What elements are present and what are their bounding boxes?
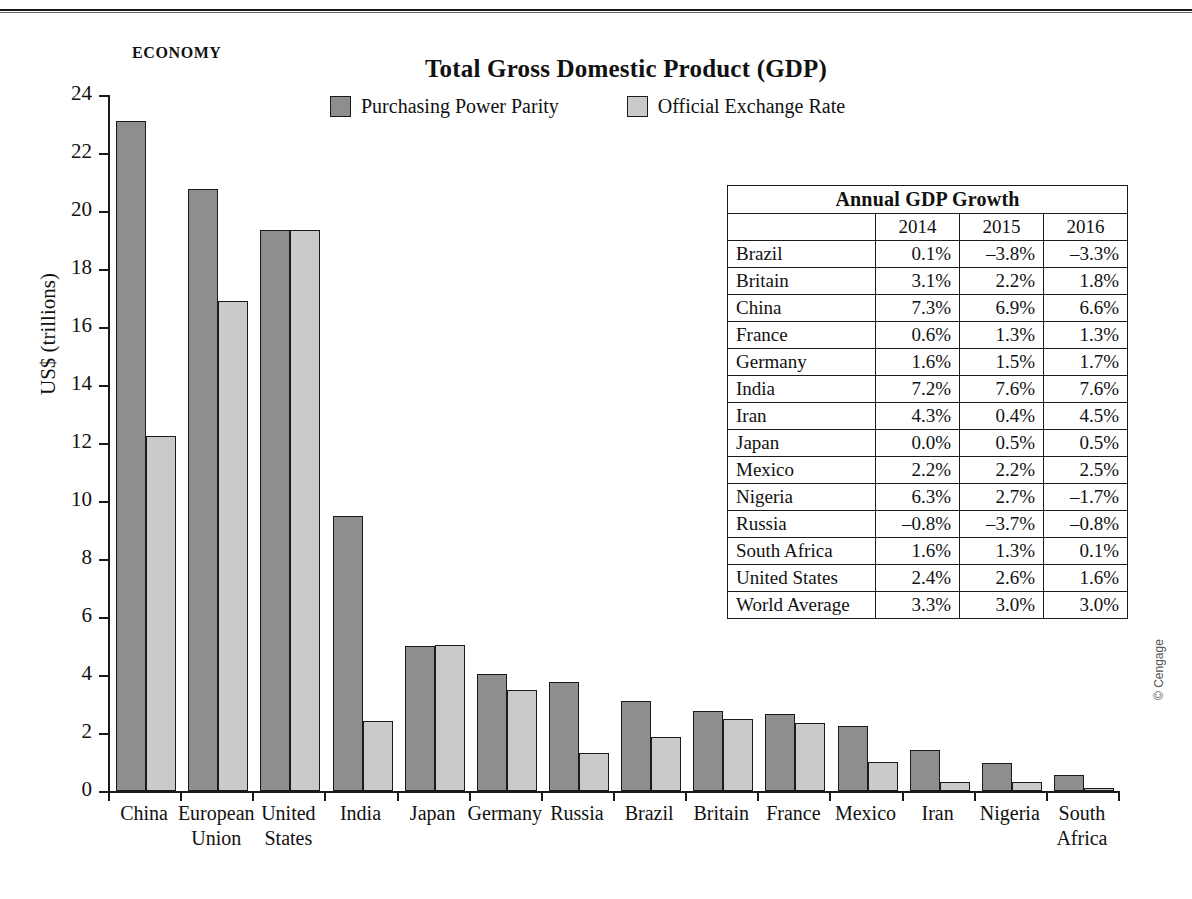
table-cell-value: 2.5% [1044,457,1128,484]
table-row: Japan0.0%0.5%0.5% [728,430,1128,457]
table-cell-value: 2.6% [960,565,1044,592]
table-cell-value: 2.2% [960,457,1044,484]
bar-ppp [188,189,218,791]
y-axis-tick-label: 16 [48,313,92,338]
bar-oer [1012,782,1042,791]
y-axis-tick-label: 22 [48,139,92,164]
y-axis-tick [99,211,108,213]
page-top-rule-secondary [0,12,1192,13]
x-axis-tick [108,791,110,801]
y-axis-tick [99,443,108,445]
table-cell-value: 1.7% [1044,349,1128,376]
table-cell-value: 3.0% [960,592,1044,619]
table-cell-value: 1.6% [1044,565,1128,592]
y-axis-tick [99,327,108,329]
y-axis-tick-label: 6 [48,603,92,628]
bar-oer [651,737,681,791]
table-corner-cell [728,214,876,241]
x-axis-tick [974,791,976,801]
x-axis-tick [1046,791,1048,801]
bar-ppp [693,711,723,791]
y-axis-tick [99,617,108,619]
y-axis-tick [99,791,108,793]
x-axis-tick [324,791,326,801]
y-axis-tick-label: 24 [48,81,92,106]
y-axis-tick-label: 8 [48,545,92,570]
bar-ppp [549,682,579,791]
x-axis-tick [902,791,904,801]
table-cell-value: 0.6% [876,322,960,349]
x-axis-tick [757,791,759,801]
table-row: France0.6%1.3%1.3% [728,322,1128,349]
bar-ppp [621,701,651,791]
y-axis-tick [99,269,108,271]
x-axis-tick [397,791,399,801]
y-axis-tick-label: 10 [48,487,92,512]
bar-oer [218,301,248,791]
table-row-label: China [728,295,876,322]
y-axis-tick [99,559,108,561]
bar-ppp [910,750,940,791]
figure-page: ECONOMY Total Gross Domestic Product (GD… [0,0,1192,899]
y-axis-tick [99,95,108,97]
bar-ppp [765,714,795,791]
table-cell-value: 1.6% [876,538,960,565]
bar-ppp [838,726,868,791]
table-row-label: United States [728,565,876,592]
x-axis-tick [685,791,687,801]
bar-oer [940,782,970,791]
table-header-row: 201420152016 [728,214,1128,241]
table-cell-value: 1.8% [1044,268,1128,295]
table-row: Iran4.3%0.4%4.5% [728,403,1128,430]
bar-ppp [477,674,507,791]
y-axis-tick-label: 12 [48,429,92,454]
x-axis-tick [252,791,254,801]
table-row-label: Mexico [728,457,876,484]
bar-oer [579,753,609,791]
table-cell-value: 4.5% [1044,403,1128,430]
x-axis-tick [829,791,831,801]
table-row: India7.2%7.6%7.6% [728,376,1128,403]
x-axis-tick [469,791,471,801]
table-row: Nigeria6.3%2.7%–1.7% [728,484,1128,511]
table-cell-value: 1.3% [1044,322,1128,349]
table-title-row: Annual GDP Growth [728,186,1128,214]
table-row-label: Iran [728,403,876,430]
table-cell-value: 3.0% [1044,592,1128,619]
table-cell-value: 2.7% [960,484,1044,511]
x-axis-tick [541,791,543,801]
y-axis-tick-label: 2 [48,719,92,744]
table-row: South Africa1.6%1.3%0.1% [728,538,1128,565]
table-cell-value: 7.6% [1044,376,1128,403]
table-row: Brazil0.1%–3.8%–3.3% [728,241,1128,268]
bar-oer [290,230,320,791]
bar-ppp [333,516,363,792]
table-row-label: Japan [728,430,876,457]
table-row-label: Germany [728,349,876,376]
table-cell-value: 0.0% [876,430,960,457]
table-cell-value: –0.8% [876,511,960,538]
table-row-label: France [728,322,876,349]
table-cell-value: 3.1% [876,268,960,295]
table-column-header: 2014 [876,214,960,241]
y-axis-tick [99,153,108,155]
x-axis-tick [613,791,615,801]
table-row: World Average3.3%3.0%3.0% [728,592,1128,619]
table-cell-value: 6.9% [960,295,1044,322]
table-cell-value: 7.2% [876,376,960,403]
table-cell-value: –1.7% [1044,484,1128,511]
chart-title: Total Gross Domestic Product (GDP) [0,55,1192,83]
bar-oer [146,436,176,791]
table-column-header: 2015 [960,214,1044,241]
y-axis-tick [99,501,108,503]
table-cell-value: 1.3% [960,322,1044,349]
table-body: Brazil0.1%–3.8%–3.3%Britain3.1%2.2%1.8%C… [728,241,1128,619]
bar-oer [363,721,393,791]
table-row-label: Russia [728,511,876,538]
page-top-rule [0,9,1192,11]
x-axis-category-label: SouthAfrica [1032,801,1132,851]
table-cell-value: 0.5% [960,430,1044,457]
bar-ppp [260,230,290,791]
table-cell-value: 0.1% [1044,538,1128,565]
table-cell-value: 0.5% [1044,430,1128,457]
